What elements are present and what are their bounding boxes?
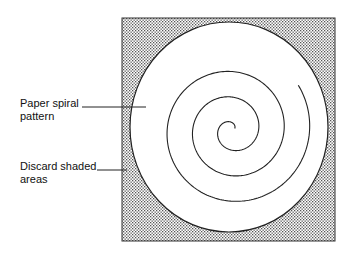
discard-shaded-area (122, 18, 335, 241)
spiral-diagram (0, 0, 356, 256)
